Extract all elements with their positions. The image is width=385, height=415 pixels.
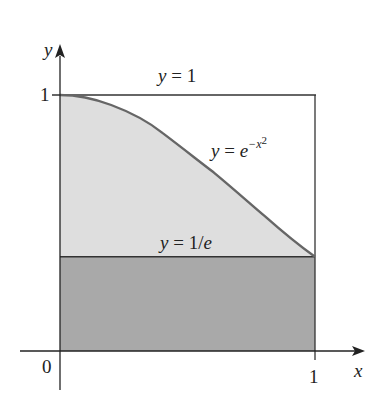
chart: y x 0 1 1 y = 1 y = e−x2 y = 1/e <box>0 0 385 415</box>
y-axis-label: y <box>42 39 53 60</box>
annotation-curve: y = e−x2 <box>209 134 267 161</box>
origin-label: 0 <box>42 356 52 377</box>
y-tick-1-label: 1 <box>40 84 50 105</box>
annotation-y-equals-1: y = 1 <box>156 65 196 86</box>
x-tick-1-label: 1 <box>309 366 319 387</box>
x-axis-label: x <box>353 360 363 381</box>
dark-shaded-region <box>60 257 315 351</box>
y-axis-arrow-icon <box>55 44 65 58</box>
annotation-y-equals-1-over-e: y = 1/e <box>158 232 212 253</box>
